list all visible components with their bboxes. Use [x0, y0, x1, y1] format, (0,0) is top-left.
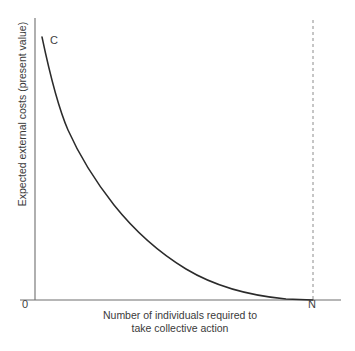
- chart-plot-area: [0, 0, 355, 351]
- y-axis-title-wrapper: Expected external costs (present value): [16, 14, 28, 214]
- origin-label: 0: [22, 299, 28, 310]
- x-axis-title: Number of individuals required to take c…: [60, 309, 300, 335]
- x-axis-title-line-2: take collective action: [60, 322, 300, 335]
- y-axis-title: Expected external costs (present value): [16, 14, 28, 214]
- chart-figure: C 0 N Number of individuals required to …: [0, 0, 355, 351]
- curve-label-c: C: [50, 35, 58, 46]
- x-axis-label-n: N: [308, 299, 316, 310]
- x-axis-title-line-1: Number of individuals required to: [60, 309, 300, 322]
- expected-external-costs-curve: [42, 37, 313, 300]
